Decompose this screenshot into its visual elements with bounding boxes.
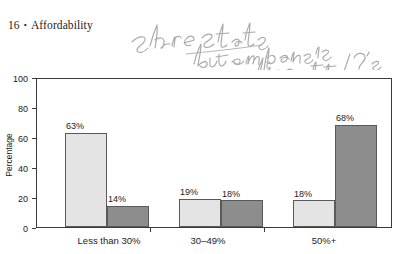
value-label-30-49-light: 19% (168, 188, 210, 197)
value-label-less-than-30-light: 63% (54, 122, 96, 131)
running-head-title: Affordability (31, 19, 93, 31)
y-tick-label-40: 40 (2, 165, 28, 174)
bar-less-than-30-dark (107, 206, 149, 227)
x-tick-mark-1 (150, 228, 151, 232)
value-label-50-plus-light: 18% (282, 190, 324, 199)
handwritten-annotation (128, 12, 388, 70)
bar-30-49-light (179, 199, 221, 228)
page-number: 16 (8, 19, 20, 31)
value-label-50-plus-dark: 68% (324, 114, 366, 123)
running-head-bullet: • (24, 20, 27, 30)
value-label-less-than-30-dark: 14% (96, 195, 138, 204)
running-head: 16•Affordability (8, 19, 93, 31)
page-canvas: 16•Affordability (0, 0, 406, 254)
y-tick-label-0: 0 (2, 225, 28, 234)
y-tick-label-60: 60 (2, 135, 28, 144)
category-label-30-49: 30–49% (152, 236, 264, 246)
bar-50-plus-dark (335, 125, 377, 227)
y-tick-label-100: 100 (2, 75, 28, 84)
plot-area (36, 78, 392, 228)
bar-50-plus-light (293, 200, 335, 227)
y-tick-label-80: 80 (2, 105, 28, 114)
bar-30-49-dark (221, 200, 263, 227)
y-tick-mark-0 (32, 228, 36, 229)
bar-less-than-30-light (65, 133, 107, 228)
y-axis-title: Percentage (4, 115, 14, 195)
category-label-50-plus: 50%+ (266, 236, 382, 246)
y-tick-label-20: 20 (2, 195, 28, 204)
bar-chart: Percentage 0 20 40 60 80 100 63% 14% (0, 66, 406, 254)
x-tick-mark-2 (264, 228, 265, 232)
handwriting-ink (128, 12, 388, 70)
value-label-30-49-dark: 18% (210, 190, 252, 199)
